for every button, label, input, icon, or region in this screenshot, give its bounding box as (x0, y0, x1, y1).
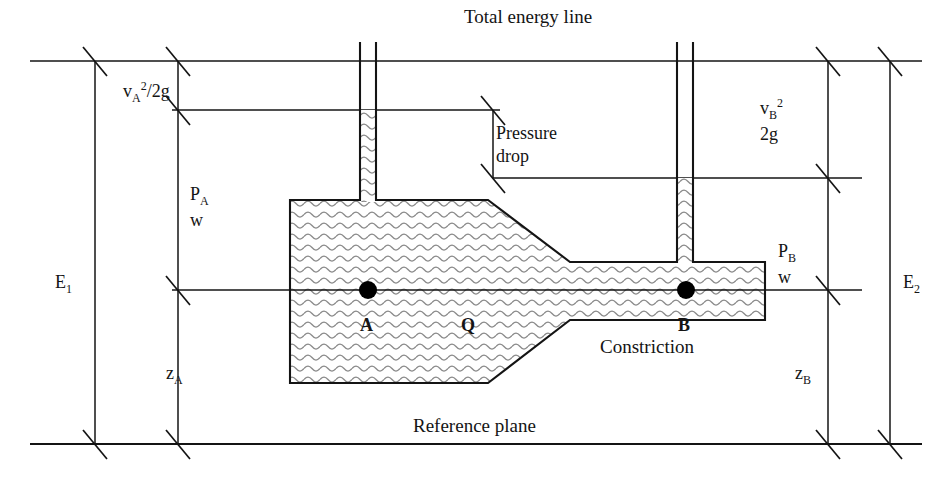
constriction-label: Constriction (600, 336, 694, 357)
pressure-head-b-line2: w (778, 266, 796, 289)
pressure-head-a-base: P (190, 184, 200, 204)
velocity-head-a-label: vA2/2g (123, 80, 170, 105)
velocity-head-a-subscript: A (132, 91, 141, 105)
total-energy-2-base: E (903, 272, 914, 292)
total-energy-1-base: E (55, 272, 66, 292)
total-energy-1-label: E1 (55, 272, 72, 296)
manometer-a-fluid-column (361, 110, 375, 202)
pressure-drop-line-1: Pressure (496, 122, 557, 145)
velocity-head-a-tail: /2g (147, 81, 170, 101)
pressure-drop-line-2: drop (496, 145, 557, 168)
bernoulli-energy-diagram: Total energy line vA2/2g vB2 2g Pressure… (0, 0, 949, 478)
velocity-head-b-base: v (760, 98, 769, 118)
pressure-head-a-label: PA w (190, 183, 209, 231)
pressure-head-a-line2: w (190, 209, 209, 232)
pressure-head-b-base: P (778, 241, 788, 261)
reference-plane-label: Reference plane (413, 415, 536, 436)
pressure-head-b-subscript: B (788, 251, 796, 265)
elevation-a-label: zA (166, 363, 183, 387)
pressure-head-b-line1: PB (778, 240, 796, 266)
elevation-b-subscript: B (803, 373, 811, 387)
point-a-label: A (360, 315, 373, 335)
total-energy-2-subscript: 2 (914, 282, 920, 296)
total-energy-line-label: Total energy line (464, 6, 592, 27)
elevation-b-base: z (795, 363, 803, 383)
velocity-head-b-line1: vB2 (760, 96, 783, 123)
point-marker-a (359, 281, 377, 299)
pressure-drop-label: Pressure drop (496, 122, 557, 167)
total-energy-1-subscript: 1 (66, 282, 72, 296)
velocity-head-a-base: v (123, 81, 132, 101)
velocity-head-b-line2: 2g (760, 123, 783, 146)
elevation-a-base: z (166, 363, 174, 383)
velocity-head-b-superscript: 2 (777, 96, 783, 110)
point-marker-b (677, 281, 695, 299)
pressure-head-a-line1: PA (190, 183, 209, 209)
pressure-head-b-label: PB w (778, 240, 796, 288)
manometer-b-fluid-column (678, 178, 692, 263)
total-energy-2-label: E2 (903, 272, 920, 296)
velocity-head-b-subscript: B (769, 108, 777, 122)
elevation-b-label: zB (795, 363, 811, 387)
elevation-a-subscript: A (174, 373, 183, 387)
pressure-head-a-subscript: A (200, 194, 209, 208)
flow-rate-label: Q (461, 315, 475, 335)
velocity-head-b-label: vB2 2g (760, 96, 783, 145)
diagram-canvas (0, 0, 949, 478)
point-b-label: B (678, 315, 690, 335)
